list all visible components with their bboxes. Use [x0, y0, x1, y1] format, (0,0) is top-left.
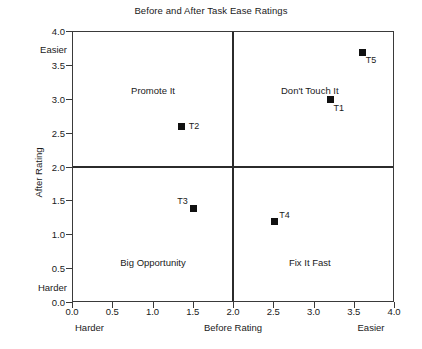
quadrant-label-fix-it-fast: Fix It Fast	[289, 256, 331, 267]
y-tick-label: 2.5	[25, 127, 65, 138]
x-tick-label: 2.5	[253, 306, 293, 317]
x-axis-title: Before Rating	[72, 322, 394, 333]
data-point-label: T5	[366, 55, 377, 65]
chart-figure: Before and After Task Ease Ratings After…	[0, 0, 422, 349]
y-tick-label: 1.0	[25, 229, 65, 240]
data-point-marker	[271, 218, 278, 225]
x-tick-label: 4.0	[374, 306, 414, 317]
chart-title: Before and After Task Ease Ratings	[0, 5, 422, 16]
quadrant-label-promote-it: Promote It	[131, 84, 175, 95]
data-point-label: T2	[189, 121, 200, 131]
data-point-label: T3	[177, 196, 188, 206]
quadrant-label-big-opportunity: Big Opportunity	[120, 256, 185, 267]
y-tick-label: 1.5	[25, 195, 65, 206]
x-tick-label: 3.0	[294, 306, 334, 317]
y-tick-label: 4.0	[25, 26, 65, 37]
y-axis-anchor-easier: Easier	[17, 44, 67, 55]
data-point-label: T4	[279, 210, 290, 220]
x-tick-label: 1.5	[173, 306, 213, 317]
y-axis-anchor-harder: Harder	[17, 282, 67, 293]
x-tick-label: 1.0	[133, 306, 173, 317]
quadrant-label-dont-touch-it: Don't Touch It	[281, 84, 339, 95]
x-tick-label: 0.0	[52, 306, 92, 317]
data-point-marker	[190, 205, 197, 212]
y-tick-label: 0.5	[25, 263, 65, 274]
data-point-marker	[178, 123, 185, 130]
y-tick-label: 2.0	[25, 161, 65, 172]
y-tick-label: 3.0	[25, 93, 65, 104]
plot-area: Promote It Don't Touch It Big Opportunit…	[72, 31, 394, 302]
x-axis-anchor-easier: Easier	[348, 322, 394, 333]
y-tick-label: 3.5	[25, 59, 65, 70]
data-point-label: T1	[334, 103, 345, 113]
x-axis-anchor-harder: Harder	[75, 322, 104, 333]
reference-line-horizontal	[73, 166, 393, 168]
x-tick-label: 0.5	[92, 306, 132, 317]
x-tick-label: 2.0	[213, 306, 253, 317]
x-tick-label: 3.5	[334, 306, 374, 317]
